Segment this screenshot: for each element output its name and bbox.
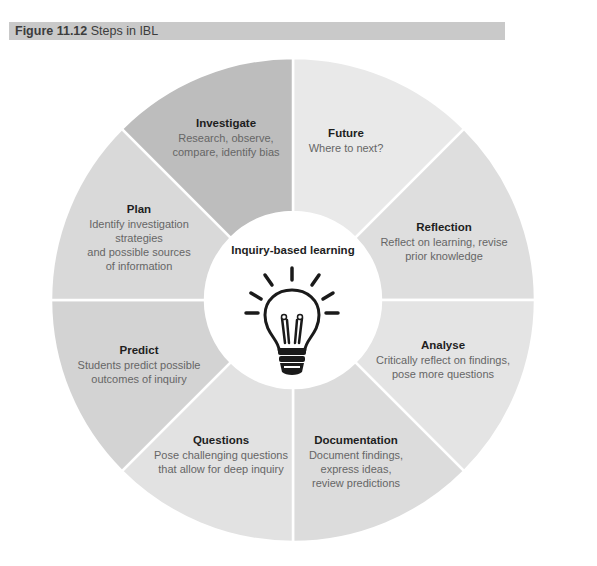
segment-description: Critically reflect on findings, pose mor…	[376, 353, 510, 381]
segment-label-investigate: Investigate Research, observe, compare, …	[173, 116, 280, 159]
segment-title: Reflection	[380, 220, 507, 234]
ibl-cycle-wheel	[0, 0, 597, 566]
segment-title: Documentation	[309, 433, 403, 447]
segment-label-predict: Predict Students predict possible outcom…	[78, 343, 201, 386]
segment-label-questions: Questions Pose challenging questions tha…	[154, 433, 288, 476]
segment-title: Plan	[87, 202, 190, 216]
segment-description: Students predict possible outcomes of in…	[78, 358, 201, 386]
segment-description: Identify investigation strategies and po…	[87, 217, 190, 273]
lightbulb-base	[278, 348, 306, 375]
segment-title: Future	[309, 126, 384, 140]
segment-description: Pose challenging questions that allow fo…	[154, 448, 288, 476]
segment-description: Document findings, express ideas, review…	[309, 448, 403, 490]
segment-title: Questions	[154, 433, 288, 447]
segment-title: Analyse	[376, 338, 510, 352]
segment-description: Reflect on learning, revise prior knowle…	[380, 235, 507, 263]
segment-label-reflection: Reflection Reflect on learning, revise p…	[380, 220, 507, 263]
lightbulb-base-highlight	[284, 366, 300, 368]
segment-label-analyse: Analyse Critically reflect on findings, …	[376, 338, 510, 381]
segment-description: Research, observe, compare, identify bia…	[173, 131, 280, 159]
segment-description: Where to next?	[309, 141, 384, 155]
segment-title: Investigate	[173, 116, 280, 130]
center-title: Inquiry-based learning	[231, 244, 354, 256]
segment-label-documentation: Documentation Document findings, express…	[309, 433, 403, 490]
segment-title: Predict	[78, 343, 201, 357]
segment-label-future: Future Where to next?	[309, 126, 384, 155]
segment-label-plan: Plan Identify investigation strategies a…	[87, 202, 190, 273]
